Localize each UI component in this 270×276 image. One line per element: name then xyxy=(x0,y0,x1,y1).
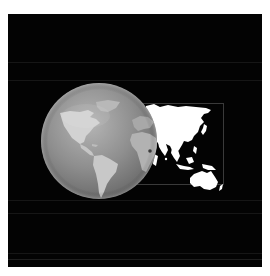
globe-rim xyxy=(41,83,157,199)
globe-highlight xyxy=(62,104,110,128)
image-panel: Shaded grayscale globe showing the Ameri… xyxy=(8,14,262,267)
globe xyxy=(8,14,262,267)
